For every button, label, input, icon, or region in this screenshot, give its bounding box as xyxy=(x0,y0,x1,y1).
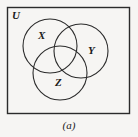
venn-diagram-canvas xyxy=(0,0,138,137)
subfigure-caption: (a) xyxy=(0,120,138,131)
set-label-z: Z xyxy=(55,77,62,88)
set-circle-y xyxy=(54,24,108,78)
set-label-x: X xyxy=(38,30,45,41)
set-circle-z xyxy=(33,46,87,100)
set-label-y: Y xyxy=(88,45,95,56)
venn-diagram-figure: U X Y Z (a) xyxy=(0,0,138,137)
universe-rectangle xyxy=(8,8,130,114)
universe-label: U xyxy=(12,10,20,21)
